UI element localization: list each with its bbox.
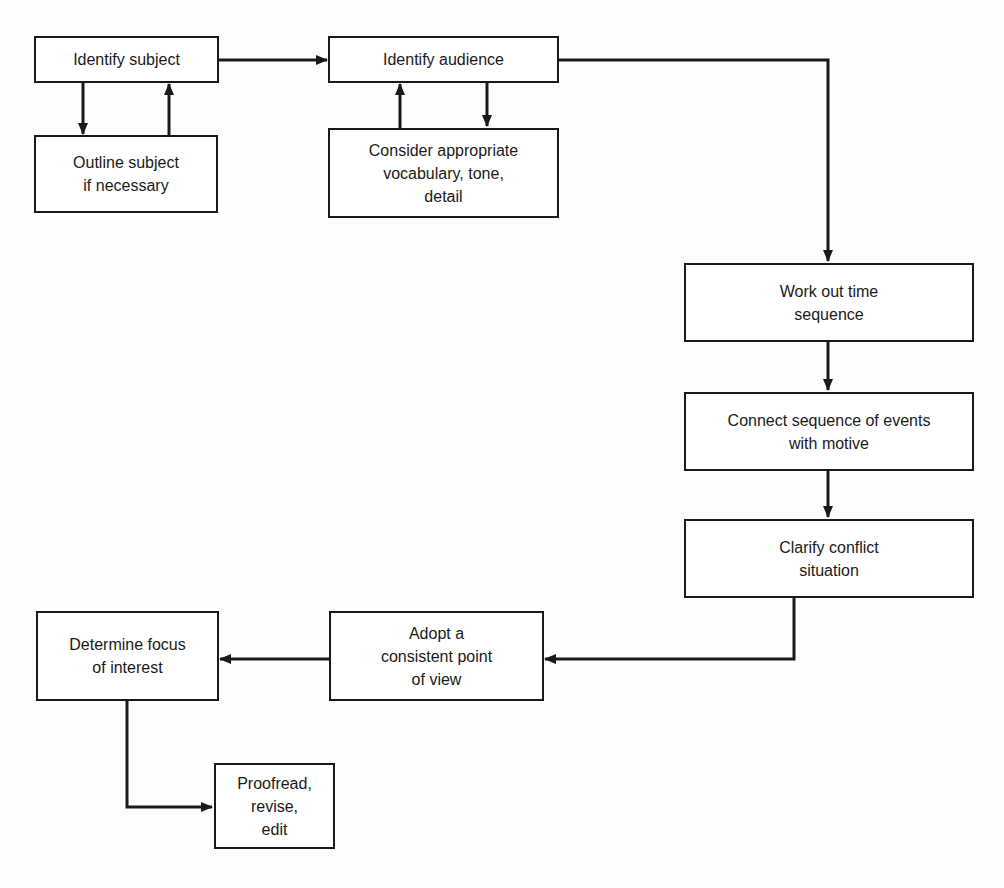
node-determine-focus: Determine focus of interest [36, 611, 219, 701]
node-identify-subject: Identify subject [34, 36, 219, 83]
node-outline-subject: Outline subject if necessary [34, 135, 218, 213]
arrow-audience-to-time-sequence [558, 60, 828, 261]
node-clarify-conflict: Clarify conflict situation [684, 519, 974, 598]
node-consider-vocabulary: Consider appropriate vocabulary, tone, d… [328, 128, 559, 218]
node-proofread: Proofread, revise, edit [214, 763, 335, 849]
node-connect-sequence: Connect sequence of events with motive [684, 392, 974, 471]
arrow-clarify-to-adopt [545, 597, 794, 659]
flowchart-canvas: Identify subject Outline subject if nece… [0, 0, 1004, 888]
node-identify-audience: Identify audience [328, 36, 559, 83]
node-work-out-time-sequence: Work out time sequence [684, 263, 974, 342]
node-adopt-point-of-view: Adopt a consistent point of view [329, 611, 544, 701]
arrow-focus-to-proofread [127, 700, 212, 807]
